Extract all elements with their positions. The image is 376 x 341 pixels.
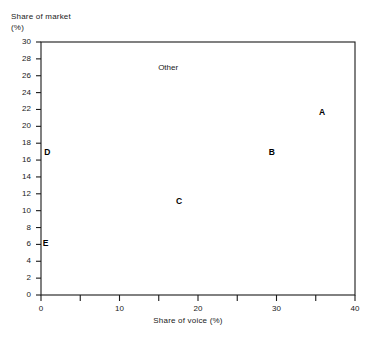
- y-tick-label: 0: [7, 290, 31, 299]
- x-tick-label: 0: [29, 304, 53, 313]
- x-axis-ticks: [41, 295, 355, 301]
- data-point-c: C: [176, 196, 182, 206]
- x-tick-label: 10: [108, 304, 132, 313]
- x-tick-label: 40: [343, 304, 367, 313]
- y-axis-title-line1: Share of market: [11, 12, 71, 21]
- x-tick-label: 20: [186, 304, 210, 313]
- data-point-e: E: [43, 238, 49, 248]
- scatter-chart: Share of market (%) Share of voice (%) 0…: [0, 0, 376, 341]
- x-axis-title: Share of voice (%): [0, 316, 376, 325]
- y-tick-label: 14: [7, 172, 31, 181]
- x-tick-label: 30: [265, 304, 289, 313]
- y-axis-ticks: [36, 42, 41, 295]
- data-point-other: Other: [158, 63, 178, 72]
- y-tick-label: 4: [7, 256, 31, 265]
- y-tick-label: 12: [7, 189, 31, 198]
- y-tick-label: 26: [7, 71, 31, 80]
- y-tick-label: 6: [7, 239, 31, 248]
- y-tick-label: 20: [7, 121, 31, 130]
- data-point-a: A: [319, 107, 325, 117]
- data-point-d: D: [44, 147, 50, 157]
- data-point-b: B: [269, 147, 275, 157]
- y-tick-label: 18: [7, 138, 31, 147]
- y-tick-label: 28: [7, 54, 31, 63]
- chart-canvas: [0, 0, 376, 341]
- plot-frame: [41, 42, 355, 295]
- y-tick-label: 10: [7, 206, 31, 215]
- y-tick-label: 16: [7, 155, 31, 164]
- y-tick-label: 2: [7, 273, 31, 282]
- y-tick-label: 8: [7, 223, 31, 232]
- y-tick-label: 22: [7, 104, 31, 113]
- y-tick-label: 24: [7, 88, 31, 97]
- y-axis-title-line2: (%): [11, 23, 24, 32]
- y-tick-label: 30: [7, 37, 31, 46]
